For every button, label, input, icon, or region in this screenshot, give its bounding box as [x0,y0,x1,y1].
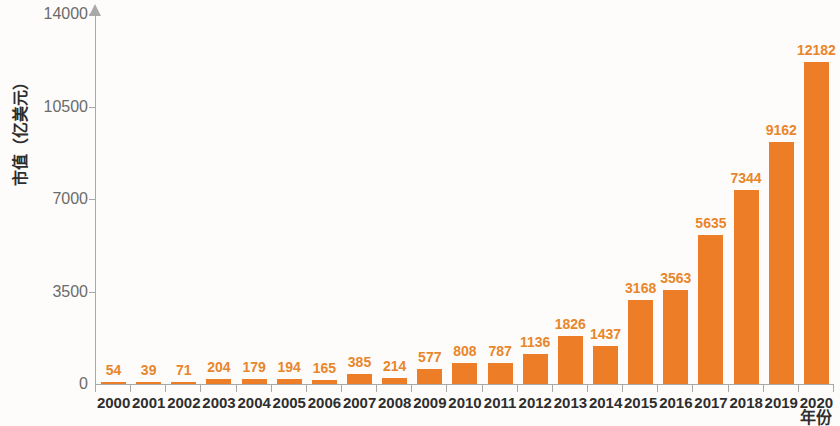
bar-slot[interactable]: 808 [447,14,482,384]
bar[interactable] [136,382,161,384]
y-axis-tick-mark [89,292,96,293]
bar-slot[interactable]: 165 [307,14,342,384]
y-axis-tick-label: 3500 [0,284,88,300]
bar-slot[interactable]: 385 [342,14,377,384]
bar[interactable] [452,363,477,384]
bar-slot[interactable]: 71 [166,14,201,384]
bar-slot[interactable]: 39 [131,14,166,384]
bar[interactable] [593,346,618,384]
x-axis-tick-mark [587,385,588,392]
bar[interactable] [417,369,442,384]
bar-slot[interactable]: 214 [377,14,412,384]
bar[interactable] [523,354,548,384]
bar[interactable] [206,379,231,384]
bar[interactable] [734,190,759,384]
bar[interactable] [382,378,407,384]
bar-slot[interactable]: 3168 [623,14,658,384]
y-axis-tick-mark [89,199,96,200]
bar[interactable] [488,363,513,384]
bar-slot[interactable]: 1437 [588,14,623,384]
bar[interactable] [312,380,337,384]
x-axis-tick-mark [130,385,131,392]
y-axis-tick-label: 14000 [0,6,88,22]
bar[interactable] [558,336,583,384]
bar[interactable] [769,142,794,384]
x-axis-tick-mark [798,385,799,392]
bar-value-label: 12182 [790,43,840,57]
bar[interactable] [242,379,267,384]
x-axis-tick-mark [833,385,834,392]
y-axis-tick-mark [89,107,96,108]
bar[interactable] [663,290,688,384]
bar-slot[interactable]: 179 [237,14,272,384]
x-axis-line [95,384,834,385]
x-axis-tick-mark [95,385,96,392]
x-axis-tick-mark [763,385,764,392]
x-axis-tick-mark [692,385,693,392]
plot-area: 5439712041791941653852145778087871136182… [96,14,834,384]
bar[interactable] [277,379,302,384]
bar[interactable] [347,374,372,384]
bar-slot[interactable]: 9162 [764,14,799,384]
x-axis-tick-mark [622,385,623,392]
x-axis-tick-mark [376,385,377,392]
x-axis-tick-mark [341,385,342,392]
bar[interactable] [171,382,196,384]
y-axis-tick-label: 10500 [0,99,88,115]
x-axis-tick-mark [236,385,237,392]
bar-slot[interactable]: 7344 [729,14,764,384]
bar-slot[interactable]: 54 [96,14,131,384]
bar[interactable] [698,235,723,384]
x-axis-tick-mark [657,385,658,392]
bar-slot[interactable]: 194 [272,14,307,384]
bar-slot[interactable]: 204 [201,14,236,384]
bar-slot[interactable]: 787 [483,14,518,384]
y-axis-tick-label: 7000 [0,191,88,207]
x-axis-tick-mark [271,385,272,392]
bar-slot[interactable]: 12182 [799,14,834,384]
x-axis-title: 年份 [800,404,832,426]
bar[interactable] [628,300,653,384]
x-axis-tick-mark [446,385,447,392]
x-axis-tick-mark [306,385,307,392]
x-axis-tick-mark [517,385,518,392]
x-axis-tick-mark [552,385,553,392]
bar[interactable] [101,382,126,384]
y-axis-tick-label: 0 [0,376,88,392]
x-axis-tick-mark [411,385,412,392]
x-axis-tick-mark [165,385,166,392]
bar-slot[interactable]: 3563 [658,14,693,384]
y-axis-tick-mark [89,14,96,15]
x-axis-tick-mark [728,385,729,392]
x-axis-tick-mark [482,385,483,392]
bar-slot[interactable]: 577 [412,14,447,384]
x-axis-tick-mark [200,385,201,392]
bar[interactable] [804,62,829,384]
bar-slot[interactable]: 5635 [693,14,728,384]
